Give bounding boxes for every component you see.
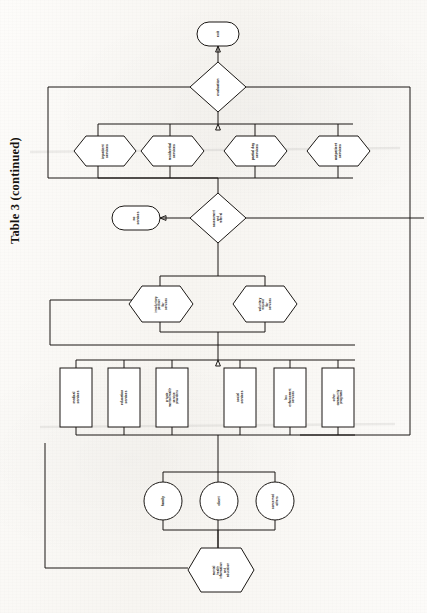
- node-family[interactable]: family: [144, 482, 182, 520]
- node-client-label: client: [217, 496, 221, 506]
- svg-text:social services: social services: [236, 390, 244, 403]
- node-voluntary[interactable]: voluntary request for services: [233, 286, 297, 322]
- node-evaluation[interactable]: evaluation: [190, 62, 246, 112]
- node-involuntary[interactable]: involuntary petition for services: [129, 286, 193, 322]
- node-evaluation-label: evaluation: [216, 78, 220, 95]
- node-inpatient[interactable]: inpatient services: [74, 136, 136, 166]
- svg-text:inpatient services: inpatient services: [101, 143, 110, 159]
- node-exit-label: exit: [216, 30, 220, 37]
- node-residential[interactable]: residential services: [141, 136, 204, 166]
- node-education[interactable]: education services: [108, 368, 140, 427]
- node-other-community[interactable]: other community programs: [322, 368, 354, 427]
- node-assessment[interactable]: assessment and referral: [190, 193, 246, 243]
- node-partial-day[interactable]: partial day services: [224, 136, 287, 166]
- svg-text:client: client: [217, 496, 221, 506]
- node-inpatient-label-l1: inpatient: [101, 143, 105, 158]
- svg-text:exit: exit: [216, 30, 220, 37]
- node-medical[interactable]: medical services: [60, 368, 92, 427]
- node-no-services[interactable]: no services: [112, 206, 160, 230]
- node-mental-health-info[interactable]: mental health information and education: [188, 548, 254, 592]
- svg-text:medical services: medical services: [72, 390, 80, 403]
- node-social[interactable]: social services: [224, 368, 256, 427]
- node-law-enforcement[interactable]: law enforcement services: [274, 368, 306, 427]
- node-client[interactable]: client: [200, 482, 238, 520]
- node-outpatient[interactable]: outpatient services: [307, 136, 370, 166]
- node-residential-label-l1: residential: [168, 143, 172, 161]
- svg-text:outpatient services: outpatient services: [334, 142, 343, 160]
- svg-text:partial day services: partial day services: [251, 142, 260, 161]
- node-private-mental-health[interactable]: private mental health service providers: [156, 368, 188, 427]
- svg-text:evaluation: evaluation: [216, 78, 220, 95]
- edge-petitions-left-rail: [50, 300, 355, 345]
- svg-text:education services: education services: [120, 389, 128, 405]
- svg-text:residential services: residential services: [168, 142, 177, 161]
- node-family-label: family: [161, 496, 165, 506]
- node-outpatient-label-l1: outpatient: [334, 142, 338, 160]
- node-concerned-others[interactable]: concerned others: [256, 482, 294, 520]
- svg-text:family: family: [161, 496, 165, 506]
- node-partial-day-label-l1: partial day: [251, 143, 255, 161]
- svg-text:voluntary request: voluntary request for services: [258, 297, 273, 311]
- flowchart-diagram: exit evaluation inpatient services resid…: [0, 0, 427, 613]
- node-exit[interactable]: exit: [197, 22, 239, 46]
